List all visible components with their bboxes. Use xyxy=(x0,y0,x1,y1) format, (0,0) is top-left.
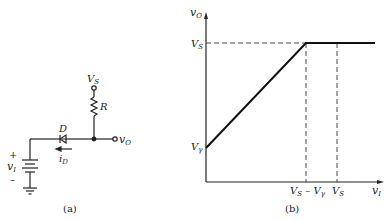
supply-label: VS xyxy=(87,73,99,86)
output-label: vO xyxy=(119,133,131,147)
figure-canvas: VS R D iD vO + vI – (a) vO VS Vγ VS – Vγ… xyxy=(0,0,388,220)
y-axis-label: vO xyxy=(190,6,202,20)
supply-terminal xyxy=(92,86,96,90)
x-tick-vs-minus-vgamma: VS – Vγ xyxy=(290,185,326,198)
vgamma-y-tick-label: Vγ xyxy=(191,141,203,154)
diode-label: D xyxy=(58,123,67,134)
transfer-curve xyxy=(206,43,375,148)
input-label: vI xyxy=(7,160,16,174)
resistor-icon xyxy=(91,97,97,116)
output-terminal xyxy=(113,137,117,141)
vs-y-tick-label: VS xyxy=(191,38,203,51)
x-axis-label: vI xyxy=(372,184,381,198)
y-axis-arrow-icon xyxy=(204,12,208,19)
minus-sign: – xyxy=(10,174,15,185)
current-arrow-icon xyxy=(56,147,72,151)
plus-sign: + xyxy=(9,149,17,160)
transfer-chart xyxy=(204,12,384,184)
ground-icon xyxy=(23,188,37,194)
caption-a: (a) xyxy=(63,203,77,214)
battery-icon xyxy=(22,160,38,172)
caption-b: (b) xyxy=(285,203,299,214)
current-label: iD xyxy=(59,153,68,166)
resistor-label: R xyxy=(99,101,108,112)
x-tick-vs: VS xyxy=(332,185,344,198)
diode-icon xyxy=(60,135,66,143)
